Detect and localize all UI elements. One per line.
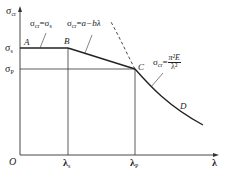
point-a-label: A bbox=[24, 38, 30, 47]
formula-linear: σcr=a−bλ bbox=[67, 19, 101, 29]
leader-euler bbox=[151, 73, 163, 87]
x-tick-lambda-s-sub: s bbox=[68, 163, 70, 169]
origin-label: O bbox=[9, 157, 16, 167]
x-tick-lambda-p: λP bbox=[130, 158, 138, 169]
y-tick-sigma-s: σs bbox=[5, 43, 13, 54]
y-axis-arrow-icon bbox=[18, 6, 22, 12]
formula-yield: σcr=σs bbox=[30, 19, 52, 29]
formula-euler-denominator: λ² bbox=[168, 63, 181, 71]
point-c-label: C bbox=[138, 63, 144, 72]
leader-linear bbox=[85, 35, 92, 53]
point-b-label: B bbox=[64, 37, 70, 46]
formula-yield-rhs-sub: s bbox=[49, 23, 51, 29]
y-tick-sigma-p-sub: P bbox=[10, 69, 13, 75]
leader-yield bbox=[40, 33, 46, 48]
formula-euler: σcr=π²Eλ² bbox=[153, 54, 181, 71]
y-axis-label: σcr bbox=[6, 6, 16, 17]
x-tick-lambda-s: λs bbox=[63, 158, 70, 169]
formula-euler-fraction: π²Eλ² bbox=[168, 54, 181, 71]
point-d-label: D bbox=[180, 102, 187, 111]
x-axis-label: λ bbox=[212, 158, 217, 168]
segment-bc bbox=[68, 48, 135, 69]
x-tick-lambda-p-sub: P bbox=[135, 163, 138, 169]
y-tick-sigma-s-sub: s bbox=[10, 48, 12, 54]
euler-curve-cd bbox=[135, 69, 203, 125]
formula-linear-rhs: a−bλ bbox=[82, 18, 101, 28]
y-tick-sigma-p: σP bbox=[5, 64, 14, 75]
y-axis-label-sub: cr bbox=[11, 11, 16, 17]
